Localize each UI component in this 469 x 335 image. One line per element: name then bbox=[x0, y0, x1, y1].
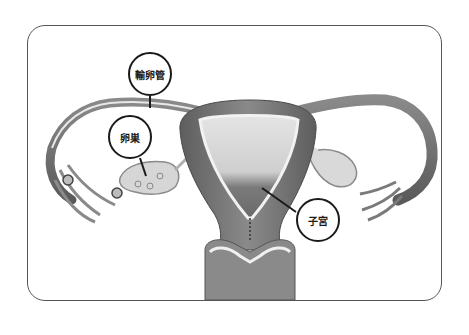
label-ovary-text: 卵巣 bbox=[120, 130, 140, 145]
label-ovary: 卵巣 bbox=[108, 115, 152, 159]
uterus-body bbox=[180, 100, 316, 300]
label-fallopian-tube-text: 輸卵管 bbox=[135, 67, 165, 82]
label-uterus: 子宮 bbox=[296, 198, 340, 242]
label-uterus-text: 子宮 bbox=[308, 213, 328, 228]
label-fallopian-tube: 輸卵管 bbox=[128, 52, 172, 96]
anatomy-illustration bbox=[0, 0, 469, 335]
